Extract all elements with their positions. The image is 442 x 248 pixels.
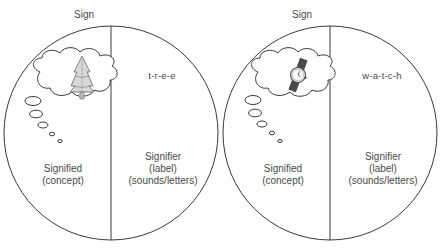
thought-bubble — [278, 140, 282, 143]
thought-bubble — [269, 131, 274, 135]
signifier-word: t-r-e-e — [148, 70, 175, 82]
signifier-subtitle: (label) — [349, 163, 418, 175]
thought-bubble — [25, 97, 41, 106]
thought-bubble — [38, 122, 48, 128]
signified-title: Signified — [42, 163, 84, 175]
thought-bubble — [257, 121, 267, 127]
thought-bubble — [58, 140, 62, 143]
signifier-title: Signifier — [349, 151, 418, 163]
thought-bubble — [49, 132, 54, 136]
signified-subtitle: (concept) — [262, 175, 304, 187]
signifier-word: w-a-t-c-h — [362, 70, 401, 82]
sign-title: Sign — [292, 9, 312, 21]
signifier-title: Signifier — [129, 151, 198, 163]
signifier-detail: (sounds/letters) — [349, 175, 418, 187]
sign-diagram-tree — [4, 26, 218, 240]
signifier-label: Signifier (label) (sounds/letters) — [129, 151, 198, 187]
signifier-label: Signifier (label) (sounds/letters) — [349, 151, 418, 187]
thought-bubble — [249, 109, 262, 117]
signified-label: Signified (concept) — [42, 163, 84, 187]
signified-subtitle: (concept) — [42, 175, 84, 187]
signifier-detail: (sounds/letters) — [129, 175, 198, 187]
thought-bubble — [245, 96, 261, 105]
signified-label: Signified (concept) — [262, 163, 304, 187]
signifier-subtitle: (label) — [129, 163, 198, 175]
sign-diagrams-canvas — [0, 0, 442, 248]
signified-title: Signified — [262, 163, 304, 175]
sign-title: Sign — [74, 9, 94, 21]
thought-bubble — [30, 110, 43, 118]
sign-diagram-watch — [223, 26, 437, 240]
